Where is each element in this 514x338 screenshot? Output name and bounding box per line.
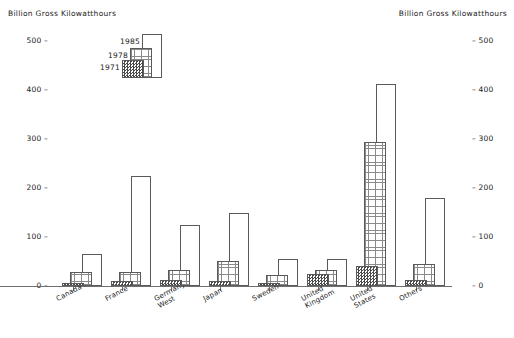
x-label-united-states: UnitedStates	[349, 285, 378, 310]
y-tick-right-300: – 300	[472, 134, 493, 143]
y-tick-left-400: 400 –	[27, 85, 48, 94]
legend-label-1978: 1978	[98, 51, 128, 60]
chart-container: Billion Gross Kilowatthours Billion Gros…	[0, 0, 514, 338]
right-axis-title: Billion Gross Kilowatthours	[399, 9, 507, 18]
x-axis-baseline	[0, 286, 452, 287]
x-label-france: France	[104, 285, 129, 304]
bar-1971-canada	[62, 283, 84, 286]
y-tick-left-500: 500 –	[27, 36, 48, 45]
legend-swatch-1971	[122, 60, 144, 78]
bar-1971-france	[111, 281, 133, 286]
legend-label-1971: 1971	[98, 63, 120, 72]
y-tick-right-500: – 500	[472, 36, 493, 45]
x-label-line: Japan	[202, 286, 224, 303]
bar-1978-united-states	[364, 142, 386, 286]
y-tick-left-100: 100 –	[27, 232, 48, 241]
bar-1971-germany-west	[160, 280, 182, 286]
left-axis-title: Billion Gross Kilowatthours	[8, 9, 116, 18]
bar-1985-france	[131, 176, 151, 286]
y-tick-right-400: – 400	[472, 85, 493, 94]
x-label-others: Others	[398, 284, 424, 303]
bar-1971-others	[405, 280, 427, 286]
legend-label-1985: 1985	[98, 37, 140, 46]
x-label-line: Others	[398, 284, 424, 303]
bar-1971-sweden	[258, 283, 280, 286]
y-tick-right-200: – 200	[472, 183, 493, 192]
y-tick-left-200: 200 –	[27, 183, 48, 192]
y-tick-right-0: – 0	[472, 281, 484, 290]
bar-1971-united-states	[356, 266, 378, 286]
bar-1971-united-kingdom	[307, 274, 329, 286]
x-label-line: France	[104, 285, 129, 304]
bar-1971-japan	[209, 281, 231, 286]
y-tick-left-300: 300 –	[27, 134, 48, 143]
x-label-japan: Japan	[202, 286, 224, 303]
y-tick-right-100: – 100	[472, 232, 493, 241]
legend: 198519781971	[98, 34, 194, 88]
